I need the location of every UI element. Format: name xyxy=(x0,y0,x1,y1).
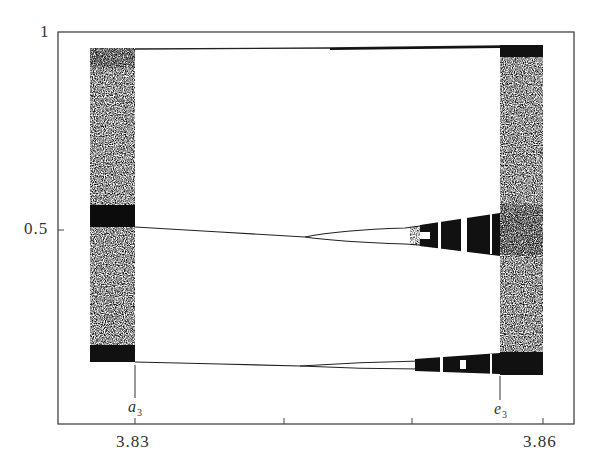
annotation-e3-sub: 3 xyxy=(502,409,508,420)
middle-doubling-lower xyxy=(305,237,420,245)
lower-doubling-upper xyxy=(300,361,420,366)
annotation-e3-base: e xyxy=(494,400,502,417)
lower-chaotic-cascade xyxy=(415,353,500,374)
x-label-3.83: 3.83 xyxy=(116,432,150,452)
annotation-e3: e3 xyxy=(494,400,508,420)
y-label-0.5: 0.5 xyxy=(24,219,48,239)
chaotic-band-left xyxy=(90,48,135,362)
window-gap-3 xyxy=(490,214,492,254)
middle-branch xyxy=(135,227,305,237)
window-gap-2 xyxy=(461,216,467,252)
lower-doubling-lower xyxy=(300,366,420,369)
middle-doubling-upper xyxy=(305,226,420,237)
lower-gap-1 xyxy=(440,356,443,373)
bifurcation-chart xyxy=(0,0,603,471)
chaotic-band-right xyxy=(500,45,543,375)
lower-gap-3 xyxy=(490,354,492,374)
lower-gap-2 xyxy=(460,360,466,369)
middle-cascade-solid xyxy=(420,213,500,256)
window-gap-1 xyxy=(438,218,441,250)
lower-branch xyxy=(135,362,300,366)
annotation-a3-sub: 3 xyxy=(137,407,143,418)
annotation-a3-base: a xyxy=(128,398,137,415)
x-label-3.86: 3.86 xyxy=(523,432,557,452)
cascade-inner-white xyxy=(420,232,430,239)
y-label-1: 1 xyxy=(40,22,50,42)
annotation-a3: a3 xyxy=(128,398,143,418)
